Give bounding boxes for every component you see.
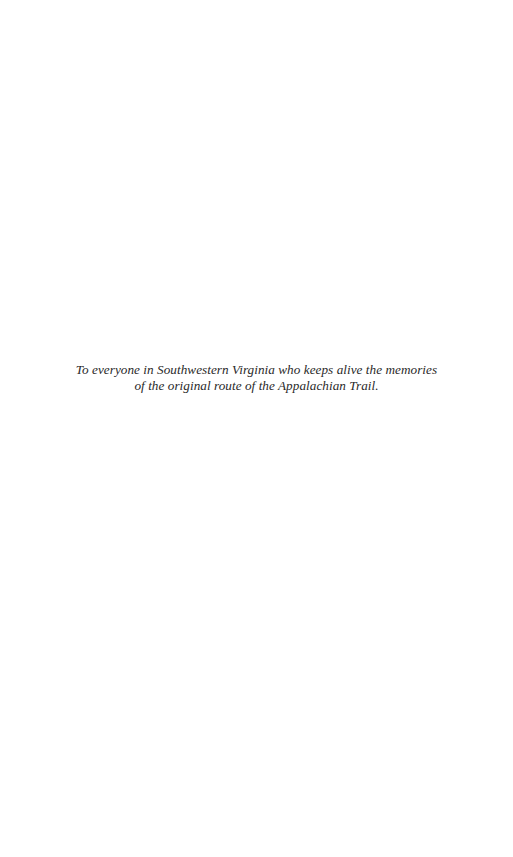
dedication-line-1: To everyone in Southwestern Virginia who… (0, 362, 513, 378)
book-page: To everyone in Southwestern Virginia who… (0, 0, 513, 857)
dedication-line-2: of the original route of the Appalachian… (0, 378, 513, 394)
dedication-text: To everyone in Southwestern Virginia who… (0, 362, 513, 394)
